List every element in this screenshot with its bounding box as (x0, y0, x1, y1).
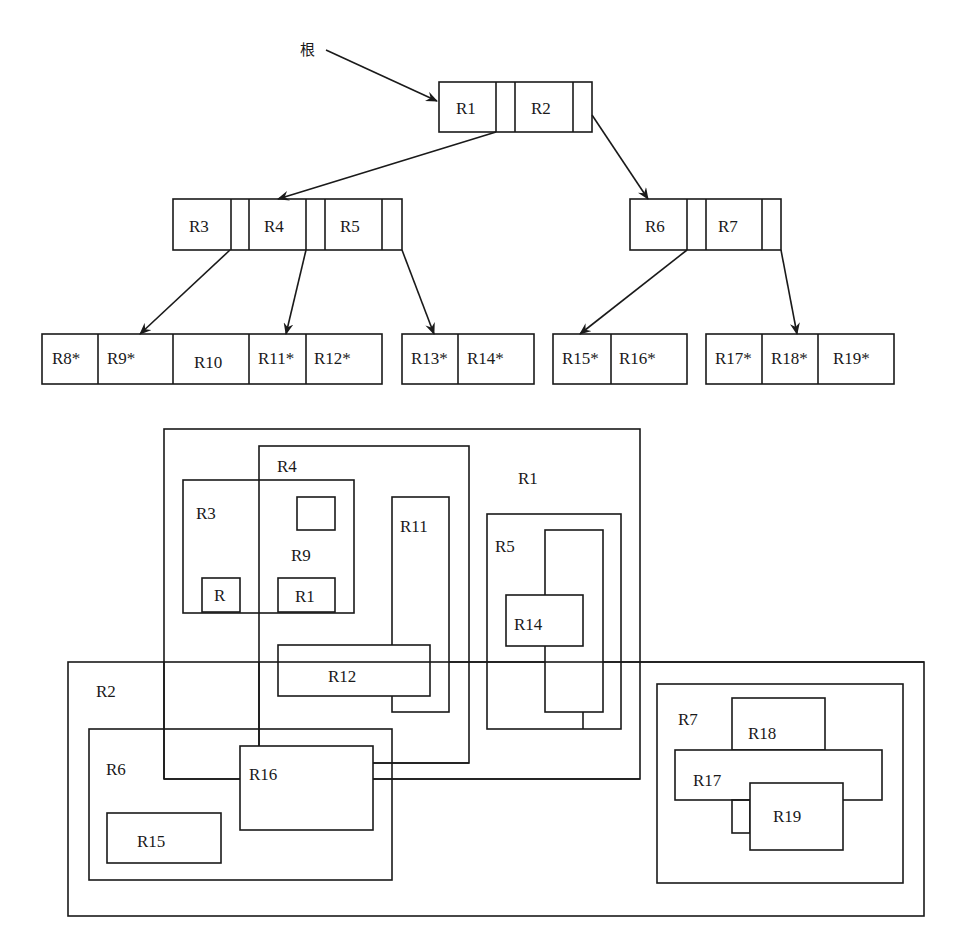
entry-R17: R17* (715, 349, 752, 368)
entry-R8: R8* (52, 349, 80, 368)
leaf-node-2: R13* R14* (402, 334, 534, 384)
entry-R2: R2 (531, 99, 551, 118)
tree-structure: 根 R1 R2 R3 R4 R5 (42, 41, 894, 384)
region-R18-label: R18 (748, 724, 776, 743)
entry-R4: R4 (264, 217, 284, 236)
region-stub (732, 800, 750, 833)
region-R7-label: R7 (678, 710, 698, 729)
arrow-r5-to-leaf (402, 250, 434, 334)
entry-R19: R19* (833, 349, 870, 368)
region-R18 (732, 698, 825, 750)
entry-R9: R9* (107, 349, 135, 368)
arrow-r3-to-leaf (140, 250, 230, 334)
region-R1-label: R1 (518, 469, 538, 488)
region-R16-label: R16 (249, 765, 277, 784)
tree-node-root: R1 R2 (439, 82, 592, 132)
arrow-r4-to-leaf (286, 250, 306, 334)
region-R-small-label: R (214, 586, 226, 605)
region-R16 (240, 746, 373, 830)
region-R12-label: R12 (328, 667, 356, 686)
entry-R1: R1 (456, 99, 476, 118)
leaf-node-3: R15* R16* (553, 334, 687, 384)
region-R19-label: R19 (773, 807, 801, 826)
arrow-r7-to-leaf (781, 250, 797, 334)
arrow-root-to-right (592, 115, 648, 199)
root-arrow (326, 50, 437, 101)
region-R4 (259, 446, 469, 763)
entry-R6: R6 (645, 217, 665, 236)
region-R4-label: R4 (277, 457, 297, 476)
entry-R11: R11* (258, 349, 294, 368)
entry-R5: R5 (340, 217, 360, 236)
region-small-square (297, 497, 335, 530)
arrow-root-to-left (278, 132, 496, 199)
spatial-regions: R1 R4 R3 R9 R R1 R11 R12 R5 R14 R2 R6 (68, 429, 924, 916)
region-R6-label: R6 (106, 760, 126, 779)
region-R9-label: R9 (291, 546, 311, 565)
region-R3-label: R3 (196, 504, 216, 523)
entry-R10: R10 (194, 353, 222, 372)
region-R2-label: R2 (96, 682, 116, 701)
region-R1-small-label: R1 (295, 587, 315, 606)
entry-R12: R12* (314, 349, 351, 368)
entry-R3: R3 (189, 217, 209, 236)
region-R3 (183, 480, 354, 613)
leaf-node-4: R17* R18* R19* (706, 334, 894, 384)
entry-R15: R15* (562, 349, 599, 368)
entry-R14: R14* (467, 349, 504, 368)
entry-R7: R7 (718, 217, 738, 236)
root-pointer-label: 根 (300, 41, 315, 59)
region-R15-label: R15 (137, 832, 165, 851)
region-R17-label: R17 (693, 771, 722, 790)
region-R11-label: R11 (400, 517, 428, 536)
entry-R13: R13* (411, 349, 448, 368)
arrow-r6-to-leaf (580, 250, 687, 334)
region-R14-label: R14 (514, 615, 543, 634)
region-R5-label: R5 (495, 537, 515, 556)
leaf-node-1: R8* R9* R10 R11* R12* (42, 334, 382, 384)
rtree-diagram: 根 R1 R2 R3 R4 R5 (0, 0, 959, 947)
entry-R16: R16* (619, 349, 656, 368)
tree-node-r6-r7: R6 R7 (630, 199, 781, 250)
entry-R18: R18* (771, 349, 808, 368)
tree-node-r3-r4-r5: R3 R4 R5 (173, 199, 402, 250)
